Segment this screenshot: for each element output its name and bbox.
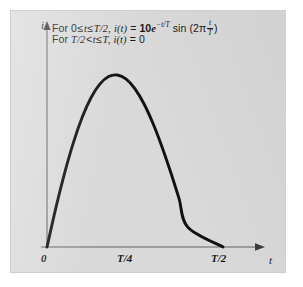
- x-tick-label-t-over-4: T/4: [117, 252, 132, 264]
- plot-canvas: [11, 11, 286, 273]
- fraction-numerator: t: [207, 19, 214, 27]
- line2-equals: =: [130, 33, 136, 45]
- line2-prefix: For: [52, 33, 68, 45]
- x-axis-label: t: [269, 254, 272, 266]
- x-tick-label-0: 0: [41, 252, 47, 264]
- line1-close-paren: ): [214, 22, 218, 34]
- line1-trig: sin (2π: [173, 22, 207, 34]
- equation-line-2: For T/2<t≤T, i(t) = 0: [52, 33, 218, 47]
- line2-bound-2: T,: [103, 34, 111, 45]
- equation-line-1: For 0≤t≤T/2, i(t) = 10e−t/T sin (2πtT): [52, 19, 218, 33]
- x-tick-label-t-over-2: T/2: [211, 252, 226, 264]
- x-axis-arrowhead: [255, 243, 265, 251]
- line1-fraction-t-over-T: tT: [207, 19, 214, 37]
- y-axis-arrowhead: [43, 21, 50, 30]
- line2-rel-2: ≤: [96, 33, 103, 45]
- line2-rel-1: <: [85, 33, 92, 45]
- line1-function: i(t): [114, 23, 127, 34]
- line2-bound-1: T/2: [71, 34, 85, 45]
- figure-panel: For 0≤t≤T/2, i(t) = 10e−t/T sin (2πtT) F…: [10, 10, 286, 273]
- line1-rel-2: ≤: [87, 22, 94, 34]
- line2-value: 0: [139, 33, 145, 45]
- y-axis-label: i: [41, 19, 44, 31]
- fraction-denominator: T: [207, 29, 214, 37]
- damped-sine-curve: [47, 75, 223, 247]
- equation-annotation: For 0≤t≤T/2, i(t) = 10e−t/T sin (2πtT) F…: [52, 19, 218, 46]
- line1-bound: T/2,: [94, 23, 111, 34]
- line1-exponent: −t/T: [156, 20, 170, 29]
- line2-function: i(t): [113, 34, 126, 45]
- line1-rel-1: ≤: [77, 22, 84, 34]
